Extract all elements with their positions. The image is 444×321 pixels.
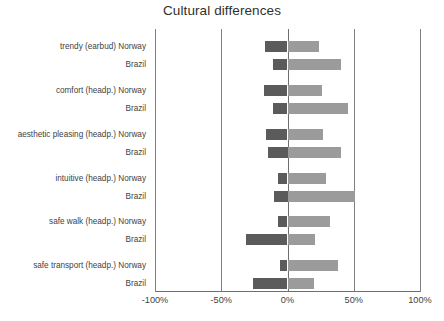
y-axis-label: trendy (earbud) Norway <box>60 42 146 51</box>
bar-segment-positive <box>288 41 320 52</box>
x-tick-label: 50% <box>345 295 363 305</box>
bar-segment-positive <box>288 260 338 271</box>
y-axis-label: aesthetic pleasing (headp.) Norway <box>18 130 146 139</box>
bar-segment-positive <box>288 59 341 70</box>
gridline-50 <box>354 29 355 292</box>
y-axis-label: Brazil <box>126 279 146 288</box>
x-tick-label: 0% <box>281 295 294 305</box>
y-axis-label: intuitive (headp.) Norway <box>55 174 146 183</box>
gridline-neg100 <box>155 29 156 292</box>
chart-title: Cultural differences <box>0 3 444 18</box>
y-axis-label: safe transport (headp.) Norway <box>33 261 146 270</box>
bar-segment-negative <box>274 191 287 202</box>
bar-segment-negative <box>266 129 287 140</box>
bar-segment-positive <box>288 85 322 96</box>
bar-segment-negative <box>273 59 288 70</box>
gridline-neg50 <box>221 29 222 292</box>
y-axis-label: Brazil <box>126 235 146 244</box>
y-axis-label: Brazil <box>126 148 146 157</box>
bar-segment-positive <box>288 129 324 140</box>
bar-segment-negative <box>268 147 288 158</box>
bar-segment-positive <box>288 191 356 202</box>
y-axis-label: comfort (headp.) Norway <box>56 86 146 95</box>
y-axis-label: Brazil <box>126 192 146 201</box>
x-tick-label: -50% <box>211 295 232 305</box>
y-axis-labels: trendy (earbud) NorwayBrazilcomfort (hea… <box>0 29 151 292</box>
bar-segment-negative <box>253 278 287 289</box>
bar-segment-positive <box>288 234 316 245</box>
y-axis-label: Brazil <box>126 104 146 113</box>
bar-segment-negative <box>280 260 288 271</box>
bar-segment-positive <box>288 216 330 227</box>
bar-segment-negative <box>246 234 287 245</box>
x-tick-label: 100% <box>408 295 432 305</box>
plot-area <box>155 29 420 292</box>
x-tick-label: -100% <box>142 295 169 305</box>
cultural-differences-chart: Cultural differences trendy (earbud) Nor… <box>0 0 444 321</box>
bar-segment-positive <box>288 103 349 114</box>
bar-segment-negative <box>265 41 288 52</box>
y-axis-label: safe walk (headp.) Norway <box>49 217 146 226</box>
x-axis-tick-labels: -100%-50%0%50%100% <box>0 295 444 311</box>
bar-segment-negative <box>264 85 288 96</box>
gridline-100 <box>420 29 421 292</box>
bar-segment-positive <box>288 278 315 289</box>
y-axis-label: Brazil <box>126 60 146 69</box>
bar-segment-negative <box>278 216 287 227</box>
bar-segment-negative <box>273 103 288 114</box>
bar-segment-positive <box>288 147 341 158</box>
bar-segment-positive <box>288 173 326 184</box>
bar-segment-negative <box>278 173 287 184</box>
